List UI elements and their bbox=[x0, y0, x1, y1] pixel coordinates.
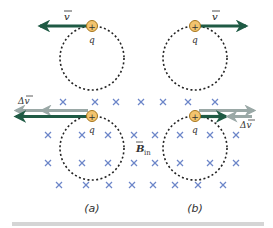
delta-velocity-label: Δv bbox=[17, 96, 30, 106]
panel-a-top: v + q bbox=[40, 11, 124, 90]
field-cross-icon bbox=[185, 99, 191, 105]
field-cross-icon bbox=[92, 99, 98, 105]
field-cross-icon bbox=[138, 99, 144, 105]
field-cross-icon bbox=[233, 132, 239, 138]
bottom-divider bbox=[12, 222, 264, 226]
field-cross-icon bbox=[45, 160, 51, 166]
velocity-label: v bbox=[64, 11, 70, 22]
caption-a: (a) bbox=[84, 202, 99, 215]
field-cross-icon bbox=[131, 160, 137, 166]
field-cross-icon bbox=[207, 132, 213, 138]
field-cross-icon bbox=[131, 132, 137, 138]
charge-label: q bbox=[89, 35, 95, 45]
field-cross-icon bbox=[113, 99, 119, 105]
charge-label: q bbox=[89, 125, 95, 135]
field-cross-icon bbox=[105, 160, 111, 166]
charge-sign: + bbox=[191, 22, 199, 32]
magnetic-force-diagram: v + q v + q Δv + q Δv + q bbox=[0, 0, 273, 228]
field-cross-icon bbox=[195, 182, 201, 188]
field-label: B in bbox=[135, 142, 151, 157]
field-cross-icon bbox=[233, 160, 239, 166]
field-cross-icon bbox=[105, 132, 111, 138]
field-cross-icon bbox=[152, 160, 158, 166]
charge-sign: + bbox=[191, 112, 199, 122]
field-cross-icon bbox=[150, 182, 156, 188]
field-cross-icon bbox=[45, 132, 51, 138]
field-cross-icon bbox=[177, 160, 183, 166]
field-cross-icon bbox=[106, 182, 112, 188]
field-cross-icon bbox=[79, 160, 85, 166]
panel-a-bottom: Δv + q bbox=[16, 96, 124, 180]
field-cross-icon bbox=[212, 99, 218, 105]
velocity-label: v bbox=[212, 11, 218, 22]
field-cross-icon bbox=[160, 99, 166, 105]
field-cross-icon bbox=[220, 182, 226, 188]
panel-b-top: v + q bbox=[163, 11, 246, 90]
field-cross-icon bbox=[177, 132, 183, 138]
field-cross-icon bbox=[83, 182, 89, 188]
field-cross-icon bbox=[60, 99, 66, 105]
field-cross-icon bbox=[56, 182, 62, 188]
charge-sign: + bbox=[88, 112, 96, 122]
field-cross-icon bbox=[79, 132, 85, 138]
delta-velocity-label: Δv bbox=[239, 120, 252, 130]
charge-label: q bbox=[192, 125, 198, 135]
panel-b-bottom: Δv + q bbox=[163, 111, 255, 181]
field-cross-icon bbox=[207, 160, 213, 166]
field-cross-icon bbox=[172, 182, 178, 188]
caption-b: (b) bbox=[187, 202, 203, 215]
field-cross-icon bbox=[152, 132, 158, 138]
field-cross-icon bbox=[129, 182, 135, 188]
charge-label: q bbox=[192, 35, 198, 45]
charge-sign: + bbox=[88, 22, 96, 32]
field-subscript: in bbox=[144, 149, 151, 157]
